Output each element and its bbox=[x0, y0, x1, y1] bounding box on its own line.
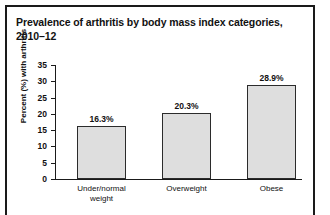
y-axis-tick-label: 5 bbox=[21, 159, 47, 167]
bar-under-normal-weight[interactable] bbox=[77, 126, 126, 179]
y-axis-tick bbox=[51, 179, 56, 180]
y-axis-tick-label: 10 bbox=[21, 142, 47, 150]
category-label-line-1: Under/normal bbox=[77, 184, 125, 193]
y-axis-tick-label: 15 bbox=[21, 126, 47, 134]
x-axis-category-label-overweight: Overweight bbox=[150, 184, 223, 194]
bar-overweight[interactable] bbox=[162, 113, 211, 179]
y-axis-tick-label: 30 bbox=[21, 77, 47, 85]
bar-value-label: 20.3% bbox=[162, 102, 211, 111]
y-axis-tick bbox=[51, 130, 56, 131]
plot-area: Percent (%) with arthritis 0 5 10 15 20 … bbox=[7, 7, 317, 204]
x-axis-category-label-under-normal-weight: Under/normal weight bbox=[65, 184, 138, 204]
y-axis-tick bbox=[51, 98, 56, 99]
x-axis-category-label-obese: Obese bbox=[235, 184, 308, 194]
y-axis-tick-label: 20 bbox=[21, 110, 47, 118]
y-axis-tick bbox=[51, 163, 56, 164]
y-axis-tick bbox=[51, 146, 56, 147]
bar-value-label: 28.9% bbox=[247, 74, 296, 83]
y-axis-tick bbox=[51, 65, 56, 66]
x-axis-line bbox=[55, 179, 302, 180]
category-label-line-1: Obese bbox=[260, 184, 284, 193]
category-label-line-1: Overweight bbox=[166, 184, 206, 193]
category-label-line-2: weight bbox=[90, 194, 113, 203]
figure-frame: Prevalence of arthritis by body mass ind… bbox=[5, 5, 315, 204]
bar-obese[interactable] bbox=[247, 85, 296, 179]
y-axis-tick bbox=[51, 81, 56, 82]
bar-value-label: 16.3% bbox=[77, 115, 126, 124]
y-axis-tick bbox=[51, 114, 56, 115]
y-axis-tick-label: 25 bbox=[21, 94, 47, 102]
y-axis-tick-label: 35 bbox=[21, 61, 47, 69]
y-axis-tick-label: 0 bbox=[21, 175, 47, 183]
